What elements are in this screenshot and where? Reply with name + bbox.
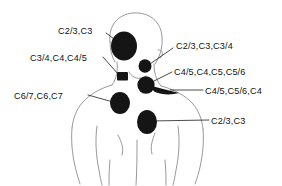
- neck-right-line: [154, 64, 161, 86]
- label-neck-lateral: C3/4,C4,C4/5: [30, 54, 87, 63]
- right-arm-outer: [195, 129, 203, 184]
- sternum-line: [136, 140, 137, 185]
- leader-shoulder: [88, 95, 113, 102]
- pain-blobs-group: [110, 32, 179, 135]
- leader-chest: [150, 120, 209, 121]
- left-breast-contour: [118, 135, 123, 155]
- label-head-lateral: C2/3,C3: [58, 27, 92, 36]
- right-flank-line: [165, 160, 166, 185]
- label-upper-neck-right: C2/3,C3,C3/4: [176, 42, 233, 51]
- pain-blob-neck-square: [117, 72, 128, 81]
- label-shoulder: C6/7,C6,C7: [14, 92, 63, 101]
- right-arm-inner: [173, 126, 179, 185]
- torso-outline-group: [72, 85, 204, 185]
- pain-blob-head: [111, 32, 137, 61]
- pain-blob-chest: [137, 110, 157, 134]
- left-arm-inner: [96, 126, 102, 185]
- label-clavicle: C4/5,C5/6,C4: [205, 87, 262, 96]
- pain-blob-supraclavicular: [137, 76, 154, 94]
- left-shoulder-line: [72, 85, 112, 128]
- label-chest: C2/3,C3: [211, 117, 245, 126]
- right-breast-contour: [151, 133, 155, 154]
- neck-left-line: [112, 62, 117, 85]
- label-supraclavicular: C4/5,C4,C5,C5/6: [174, 68, 246, 77]
- left-flank-line: [109, 160, 110, 185]
- pain-referral-diagram: C2/3,C3 C3/4,C4,C4/5 C2/3,C3,C3/4 C4/5,C…: [0, 0, 282, 186]
- leader-neck-lateral: [103, 57, 118, 74]
- left-arm-outer: [72, 128, 80, 184]
- pain-blob-shoulder: [110, 92, 130, 114]
- pain-blob-upper-neck-right: [139, 59, 152, 73]
